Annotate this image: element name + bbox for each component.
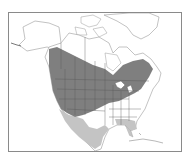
caribbean-islands	[129, 133, 163, 143]
greenland-landmass	[104, 13, 159, 39]
range-map-frame	[8, 12, 182, 152]
range-map	[9, 13, 182, 152]
arctic-islands	[75, 15, 107, 37]
map-caption	[10, 0, 180, 5]
